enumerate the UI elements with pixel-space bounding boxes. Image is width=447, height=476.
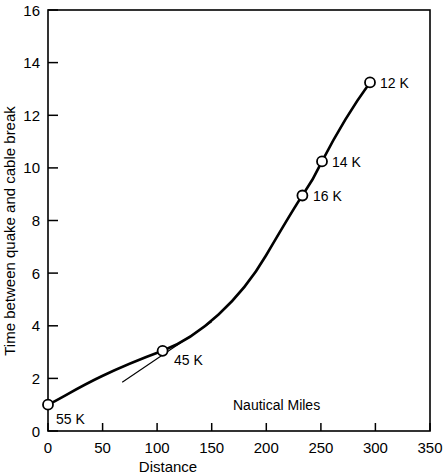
- data-point-marker-14k: [317, 156, 327, 166]
- x-tick-label: 50: [94, 439, 111, 456]
- data-point-label-12k: 12 K: [380, 75, 409, 91]
- x-tick-label: 0: [44, 439, 52, 456]
- y-tick-label: 14: [23, 54, 40, 71]
- data-point-label-55k: 55 K: [56, 411, 85, 427]
- y-tick-label: 16: [23, 2, 40, 19]
- data-point-label-45k: 45 K: [174, 352, 203, 368]
- y-tick-label: 12: [23, 107, 40, 124]
- data-point-label-14k: 14 K: [332, 154, 361, 170]
- chart-figure: 0 50 100 150 200 250 300 350 0 2 4 6 8 1…: [0, 0, 447, 476]
- y-tick-label: 4: [32, 317, 40, 334]
- x-tick-label: 250: [308, 439, 333, 456]
- data-point-marker-16k: [297, 191, 307, 201]
- y-tick-label: 2: [32, 370, 40, 387]
- y-axis-title: Time between quake and cable break: [1, 106, 18, 356]
- y-tick-label: 10: [23, 159, 40, 176]
- data-point-marker-12k: [365, 77, 375, 87]
- data-point-marker-45k: [158, 346, 168, 356]
- y-tick-label: 6: [32, 265, 40, 282]
- y-tick-label: 0: [32, 423, 40, 440]
- x-tick-label: 350: [417, 439, 442, 456]
- data-point-label-16k: 16 K: [313, 188, 342, 204]
- data-point-marker-55k: [43, 400, 53, 410]
- x-tick-label: 200: [254, 439, 279, 456]
- x-axis-title: Distance: [139, 458, 197, 475]
- x-tick-label: 150: [199, 439, 224, 456]
- y-tick-label: 8: [32, 212, 40, 229]
- x-tick-label: 100: [145, 439, 170, 456]
- x-tick-label: 300: [363, 439, 388, 456]
- nautical-miles-annotation: Nautical Miles: [233, 397, 320, 413]
- figure-background: [0, 0, 447, 476]
- chart-svg: 0 50 100 150 200 250 300 350 0 2 4 6 8 1…: [0, 0, 447, 476]
